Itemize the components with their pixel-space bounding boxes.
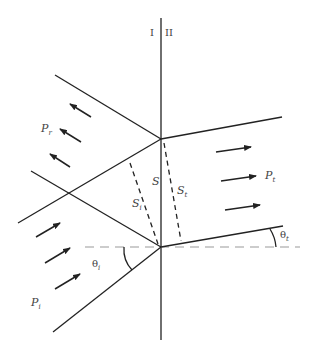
- transmitted-arrow-icon: [216, 147, 251, 152]
- incident-angle-arc: [124, 247, 132, 270]
- transmitted-arrow-icon: [225, 205, 260, 210]
- reflected-arrow-icon: [70, 104, 91, 117]
- incident-angle-label: θi: [92, 258, 100, 272]
- reflected-arrow-icon: [60, 129, 81, 142]
- reflected-arrow-icon: [50, 154, 70, 167]
- region-label-II: II: [165, 27, 173, 38]
- incident-segment-label: Si: [132, 197, 142, 212]
- transmitted-segment-label: St: [177, 184, 188, 199]
- transmitted-beam-edge-upper: [161, 117, 282, 139]
- incident-arrow-icon: [55, 274, 80, 289]
- incident-power-label: Pi: [30, 296, 41, 311]
- transmitted-angle-label: θt: [280, 229, 289, 243]
- incident-arrow-icon: [36, 223, 60, 237]
- reflected-beam-edge-upper: [55, 75, 161, 139]
- transmitted-beam-edge-lower: [161, 226, 283, 247]
- incident-arrow-icon: [45, 248, 70, 263]
- reflected-power-label: Pr: [40, 122, 52, 137]
- transmitted-arrow-icon: [221, 176, 256, 181]
- transmitted-power-label: Pt: [264, 169, 275, 184]
- transmitted-angle-arc: [270, 229, 276, 247]
- region-label-I: I: [150, 27, 154, 38]
- refraction-diagram: I II Pr Pi Pt S Si St θi θt: [0, 0, 310, 352]
- incident-beam-edge-lower: [53, 247, 161, 332]
- diagram-svg: I II Pr Pi Pt S Si St θi θt: [0, 0, 310, 352]
- interface-segment-label: S: [152, 175, 160, 188]
